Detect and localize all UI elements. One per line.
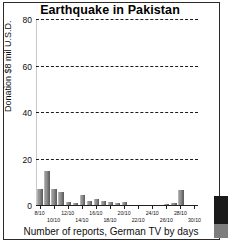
bars-group: [36, 20, 198, 206]
plot-inner: 020406080 8/1010/1012/1014/1016/1018/102…: [36, 20, 198, 206]
x-tick-label-12-10: 12/10: [61, 210, 74, 216]
x-axis-line: [36, 205, 198, 206]
bar: [51, 189, 56, 206]
x-tick-8-10: [40, 206, 41, 209]
x-axis-title: Number of reports, German TV by days: [10, 226, 212, 237]
x-tick-24-10: [152, 206, 153, 209]
y-tick-label-60: 60: [23, 62, 32, 72]
x-tick-16-10: [96, 206, 97, 209]
x-tick-18-10: [110, 206, 111, 209]
y-axis-title: Donation $8 mil U.S.D.: [3, 20, 13, 112]
corner-artifact: [214, 196, 228, 238]
x-tick-label-24-10: 24/10: [146, 210, 159, 216]
x-tick-label-28-10: 28/10: [174, 210, 187, 216]
x-tick-label-8-10: 8/10: [34, 210, 44, 216]
x-tick-label-18-10: 18/10: [103, 217, 116, 223]
y-tick-label-40: 40: [23, 108, 32, 118]
y-tick-label-20: 20: [23, 155, 32, 165]
corner-artifact-strip: [214, 224, 228, 238]
x-tick-14-10: [82, 206, 83, 209]
bar: [37, 189, 42, 206]
y-tick-label-80: 80: [23, 15, 32, 25]
bar: [58, 192, 63, 206]
bar: [178, 190, 183, 206]
x-tick-10-10: [54, 206, 55, 209]
bar: [44, 171, 49, 206]
y-tick-label-0: 0: [27, 201, 32, 211]
x-tick-28-10: [180, 206, 181, 209]
chart-title: Earthquake in Pakistan: [10, 3, 210, 17]
x-tick-26-10: [166, 206, 167, 209]
x-tick-22-10: [138, 206, 139, 209]
plot-area: 020406080 8/1010/1012/1014/1016/1018/102…: [36, 20, 198, 206]
x-tick-20-10: [124, 206, 125, 209]
x-tick-label-14-10: 14/10: [75, 217, 88, 223]
x-tick-30-10: [194, 206, 195, 209]
x-tick-label-16-10: 16/10: [89, 210, 102, 216]
chart-figure: Earthquake in Pakistan Donation $8 mil U…: [0, 0, 228, 248]
x-tick-label-10-10: 10/10: [47, 217, 60, 223]
x-tick-label-22-10: 22/10: [132, 217, 145, 223]
x-tick-label-30-10: 30/10: [188, 217, 201, 223]
x-tick-12-10: [68, 206, 69, 209]
x-tick-label-20-10: 20/10: [118, 210, 131, 216]
x-tick-label-26-10: 26/10: [160, 217, 173, 223]
